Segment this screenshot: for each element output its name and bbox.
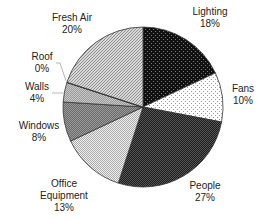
label-text: Fans [232, 83, 254, 95]
label-people: People27% [189, 180, 220, 204]
label-percent: 4% [25, 93, 49, 105]
label-text: Fresh Air [52, 12, 92, 24]
label-percent: 18% [192, 18, 227, 30]
label-text: Windows [19, 120, 60, 132]
label-percent: 20% [52, 24, 92, 36]
label-text: Office [40, 178, 88, 190]
label-text: People [189, 180, 220, 192]
pie-slices [63, 27, 223, 187]
label-lighting: Lighting18% [192, 6, 227, 30]
label-fresh-air: Fresh Air20% [52, 12, 92, 36]
label-percent: 13% [40, 202, 88, 214]
label-text: Lighting [192, 6, 227, 18]
label-percent: 0% [31, 63, 52, 75]
leader-lines [52, 63, 66, 93]
label-text: Roof [31, 51, 52, 63]
label-office-equipment: OfficeEquipment13% [40, 178, 88, 214]
label-percent: 27% [189, 192, 220, 204]
label-fans: Fans10% [232, 83, 254, 107]
label-percent: 8% [19, 132, 60, 144]
label-percent: 10% [232, 95, 254, 107]
label-roof: Roof0% [31, 51, 52, 75]
roof-leader-line [56, 63, 66, 81]
label-windows: Windows8% [19, 120, 60, 144]
label-walls: Walls4% [25, 81, 49, 105]
label-text: Walls [25, 81, 49, 93]
label-text: Equipment [40, 190, 88, 202]
